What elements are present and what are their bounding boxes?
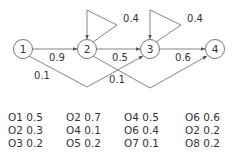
edge-3-3-label: 0.4 (187, 13, 203, 24)
emission-s1-r2: O2 0.3 (8, 124, 66, 137)
edge-3-3-loop (150, 10, 181, 42)
state-transition-diagram: 1 2 3 4 0.9 0.5 0.6 0.4 0.4 0.1 0.1 (0, 0, 237, 110)
edge-1-3-label: 0.1 (34, 70, 50, 81)
edge-2-2-loop (87, 10, 117, 42)
edge-3-4-label: 0.6 (175, 52, 191, 63)
edge-2-3-label: 0.5 (112, 52, 128, 63)
emission-s3-r1: O4 0.5 (124, 111, 185, 124)
emission-s2-r3: O5 0.2 (66, 137, 124, 150)
node-2-label: 2 (84, 43, 91, 55)
emission-s1-r1: O1 0.5 (8, 111, 66, 124)
edge-2-4-label: 0.1 (109, 74, 125, 85)
edge-2-2-label: 0.4 (123, 13, 139, 24)
emission-s3-r2: O6 0.4 (124, 124, 185, 137)
emission-s4-r1: O6 0.6 (185, 111, 237, 124)
emission-s2-r1: O2 0.7 (66, 111, 124, 124)
emission-s4-r2: O2 0.2 (185, 124, 237, 137)
node-4-label: 4 (212, 43, 219, 55)
emission-s4-r3: O8 0.2 (185, 137, 237, 150)
node-3-label: 3 (147, 43, 154, 55)
node-1-label: 1 (20, 43, 27, 55)
emission-s3-r3: O7 0.1 (124, 137, 185, 150)
emission-probability-table: O1 0.5 O2 0.7 O4 0.5 O6 0.6 O2 0.3 O4 0.… (8, 111, 237, 150)
emission-s2-r2: O4 0.1 (66, 124, 124, 137)
emission-s1-r3: O3 0.2 (8, 137, 66, 150)
edge-1-2-label: 0.9 (49, 52, 65, 63)
